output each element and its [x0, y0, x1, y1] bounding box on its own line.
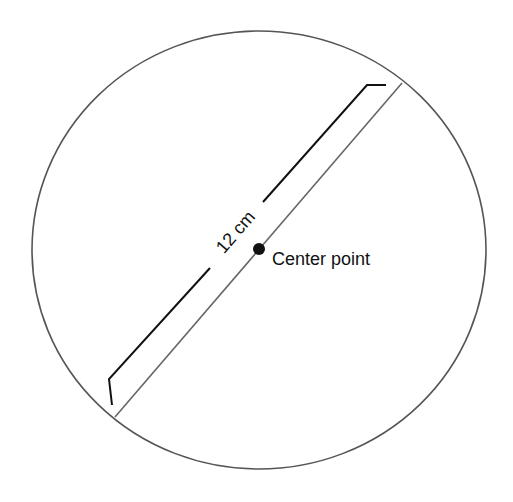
center-point-dot	[253, 243, 265, 255]
dimension-bracket-upper	[263, 85, 386, 202]
diameter-label: 12 cm	[212, 207, 259, 257]
center-point-label: Center point	[272, 249, 370, 269]
circle-diagram: 12 cm Center point	[0, 0, 513, 502]
dimension-bracket-lower	[109, 268, 210, 405]
